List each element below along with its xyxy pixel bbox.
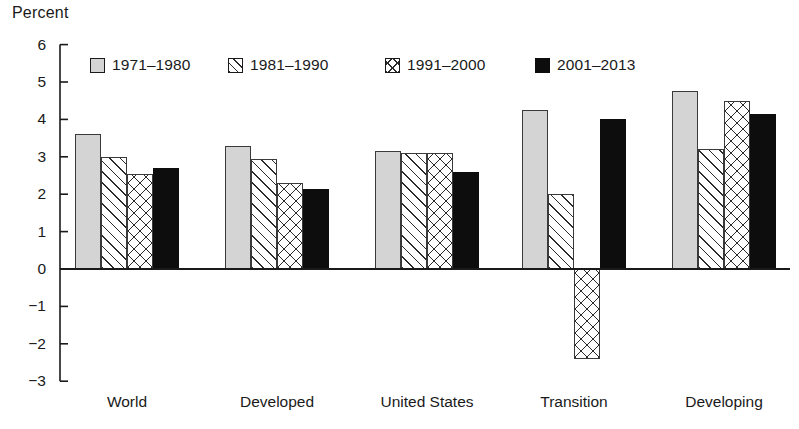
legend-swatch-2-icon [228,58,243,73]
bar-developed-series-3 [277,183,303,269]
y-tick-label: 3 [12,148,46,166]
bar-transition-series-1 [522,110,548,269]
legend-label-2: 1981–1990 [250,56,328,74]
legend-swatch-1-icon [90,58,105,73]
legend-item-3[interactable]: 1991–2000 [385,56,485,74]
chart-figure: Percent 1971–19801981–19901991–20002001–… [0,0,799,429]
x-axis-category-label: Developing [685,393,763,411]
y-tick-label: 0 [12,260,46,278]
legend-label-1: 1971–1980 [112,56,190,74]
x-axis-category-label: Developed [240,393,314,411]
y-tick-label: 4 [12,110,46,128]
bar-world-series-4 [153,168,179,269]
legend-item-2[interactable]: 1981–1990 [228,56,328,74]
y-tick-label: −1 [12,297,46,315]
bar-world-series-2 [101,157,127,269]
bar-transition-series-2 [548,194,574,269]
bar-developed-series-4 [303,189,329,269]
x-axis-category-label: World [107,393,147,411]
bar-world-series-1 [75,134,101,269]
bar-united-states-series-1 [375,151,401,269]
bar-developing-series-2 [698,149,724,269]
bar-transition-series-4 [600,119,626,269]
y-tick-label: −3 [12,372,46,390]
bar-world-series-3 [127,174,153,269]
legend-item-1[interactable]: 1971–1980 [90,56,190,74]
bar-united-states-series-4 [453,172,479,269]
legend-swatch-3-icon [385,58,400,73]
bar-developed-series-2 [251,159,277,269]
x-axis-category-label: United States [380,393,473,411]
legend-label-4: 2001–2013 [557,56,635,74]
y-tick-label: −2 [12,335,46,353]
bar-developing-series-3 [724,101,750,269]
legend-item-4[interactable]: 2001–2013 [535,56,635,74]
y-axis-tick-labels: 6543210−1−2−3 [12,0,46,429]
y-tick-label: 1 [12,223,46,241]
bar-united-states-series-3 [427,153,453,269]
y-tick-label: 2 [12,185,46,203]
legend-swatch-4-icon [535,58,550,73]
y-tick-label: 5 [12,73,46,91]
bar-developed-series-1 [225,146,251,269]
bar-transition-series-3 [574,269,600,359]
x-axis-category-label: Transition [540,393,607,411]
y-tick-label: 6 [12,36,46,54]
bar-united-states-series-2 [401,153,427,269]
bar-developing-series-1 [672,91,698,269]
legend-label-3: 1991–2000 [407,56,485,74]
bar-developing-series-4 [750,114,776,269]
